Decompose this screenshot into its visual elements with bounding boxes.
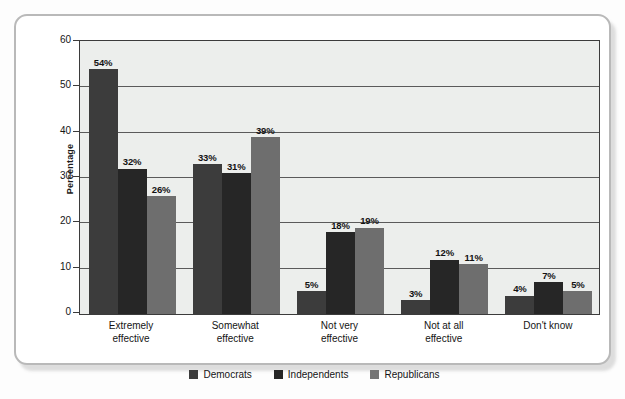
- legend-label: Republicans: [384, 369, 439, 380]
- swatch-republicans-icon: [370, 370, 379, 379]
- x-category-label: Extremely effective: [79, 320, 183, 345]
- bar-republicans-extremely-effective: [147, 196, 176, 314]
- bar-slot: 5%: [563, 41, 592, 314]
- bar-value-label: 3%: [409, 288, 423, 299]
- bar-group: 5%18%19%: [297, 41, 384, 314]
- bar-independents-not-very-effective: [326, 232, 355, 314]
- bar-value-label: 33%: [198, 152, 217, 163]
- plot-area: 54%32%26%33%31%39%5%18%19%3%12%11%4%7%5%: [79, 40, 600, 315]
- bar-value-label: 39%: [256, 125, 275, 136]
- x-category-label: Don't know: [496, 320, 600, 333]
- legend-item-democrats[interactable]: Democrats: [189, 369, 251, 380]
- bar-slot: 4%: [505, 41, 534, 314]
- bar-slot: 5%: [297, 41, 326, 314]
- bar-independents-don-t-know: [534, 282, 563, 314]
- bar-slot: 32%: [118, 41, 147, 314]
- bar-group: 3%12%11%: [401, 41, 488, 314]
- bar-slot: 3%: [401, 41, 430, 314]
- bar-value-label: 19%: [360, 215, 379, 226]
- bar-republicans-somewhat-effective: [251, 137, 280, 314]
- bar-slot: 39%: [251, 41, 280, 314]
- bar-group: 4%7%5%: [505, 41, 592, 314]
- legend-item-independents[interactable]: Independents: [274, 369, 349, 380]
- y-tick-label: 60: [31, 35, 71, 45]
- bar-value-label: 26%: [152, 184, 171, 195]
- bar-slot: 33%: [193, 41, 222, 314]
- bar-republicans-not-at-all-effective: [459, 264, 488, 314]
- bar-value-label: 54%: [94, 57, 113, 68]
- bar-slot: 54%: [89, 41, 118, 314]
- bar-value-label: 5%: [571, 279, 585, 290]
- bar-republicans-not-very-effective: [355, 228, 384, 314]
- bar-slot: 11%: [459, 41, 488, 314]
- bar-republicans-don-t-know: [563, 291, 592, 314]
- legend-label: Independents: [288, 369, 349, 380]
- y-tick-label: 40: [31, 126, 71, 136]
- bar-value-label: 18%: [331, 220, 350, 231]
- chart-card: Percentage 0102030405060 54%32%26%33%31%…: [14, 14, 611, 365]
- bar-democrats-not-very-effective: [297, 291, 326, 314]
- bar-independents-extremely-effective: [118, 169, 147, 314]
- bar-democrats-somewhat-effective: [193, 164, 222, 314]
- swatch-democrats-icon: [189, 370, 198, 379]
- bar-value-label: 7%: [542, 270, 556, 281]
- grouped-bar-chart: Percentage 0102030405060 54%32%26%33%31%…: [16, 16, 613, 367]
- y-tick-label: 0: [31, 307, 71, 317]
- x-category-label: Not at all effective: [392, 320, 496, 345]
- bar-independents-somewhat-effective: [222, 173, 251, 314]
- bar-independents-not-at-all-effective: [430, 260, 459, 314]
- bar-group: 33%31%39%: [193, 41, 280, 314]
- y-tick-label: 50: [31, 80, 71, 90]
- bar-slot: 19%: [355, 41, 384, 314]
- y-tick-label: 30: [31, 171, 71, 181]
- legend-label: Democrats: [203, 369, 251, 380]
- bar-value-label: 11%: [465, 252, 483, 263]
- chart-legend: DemocratsIndependentsRepublicans: [16, 369, 613, 380]
- bar-value-label: 12%: [435, 247, 454, 258]
- x-category-label: Somewhat effective: [183, 320, 287, 345]
- legend-item-republicans[interactable]: Republicans: [370, 369, 439, 380]
- scanned-page: Percentage 0102030405060 54%32%26%33%31%…: [0, 0, 625, 399]
- bar-value-label: 4%: [513, 283, 527, 294]
- swatch-independents-icon: [274, 370, 283, 379]
- y-tick-label: 20: [31, 216, 71, 226]
- bar-democrats-extremely-effective: [89, 69, 118, 314]
- bar-democrats-not-at-all-effective: [401, 300, 430, 314]
- bar-value-label: 32%: [123, 156, 142, 167]
- y-tick-label: 10: [31, 262, 71, 272]
- bar-value-label: 31%: [227, 161, 246, 172]
- bar-slot: 31%: [222, 41, 251, 314]
- bar-democrats-don-t-know: [505, 296, 534, 314]
- bar-slot: 7%: [534, 41, 563, 314]
- x-category-label: Not very effective: [287, 320, 391, 345]
- bar-value-label: 5%: [305, 279, 319, 290]
- bar-slot: 18%: [326, 41, 355, 314]
- bar-slot: 12%: [430, 41, 459, 314]
- bar-group: 54%32%26%: [89, 41, 176, 314]
- bar-slot: 26%: [147, 41, 176, 314]
